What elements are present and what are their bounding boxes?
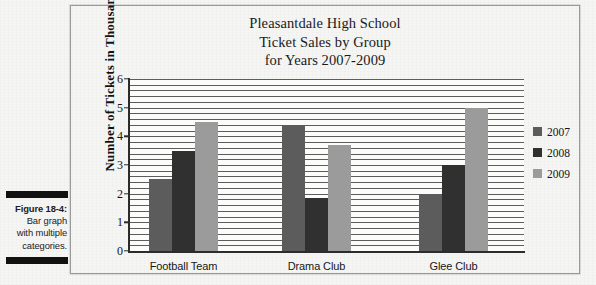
y-axis-tick-label: 6 xyxy=(107,72,123,87)
legend: 200720082009 xyxy=(533,123,570,186)
bar-drama-club-2007 xyxy=(282,125,305,251)
chart-title-line-1: Pleasantdale High School xyxy=(71,14,579,33)
y-axis-tick-labels: 0123456 xyxy=(107,79,123,251)
y-axis-line xyxy=(128,78,130,252)
legend-item-2007: 2007 xyxy=(533,123,570,140)
legend-label: 2008 xyxy=(547,147,570,159)
chart-title: Pleasantdale High School Ticket Sales by… xyxy=(71,14,579,70)
y-axis-tick-label: 5 xyxy=(107,100,123,115)
figure-frame: Pleasantdale High School Ticket Sales by… xyxy=(70,5,580,274)
x-axis-label-drama-club: Drama Club xyxy=(257,260,377,272)
y-axis-tick-label: 3 xyxy=(107,158,123,173)
plot-area xyxy=(129,79,524,251)
y-axis-tick-label: 1 xyxy=(107,215,123,230)
x-axis-label-glee-club: Glee Club xyxy=(394,260,514,272)
y-axis-tick-label: 4 xyxy=(107,129,123,144)
plot-wrapper xyxy=(129,79,524,251)
bar-football-team-2007 xyxy=(149,179,172,251)
caption-rule-bottom xyxy=(6,257,68,264)
x-axis-label-football-team: Football Team xyxy=(124,260,244,272)
figure-caption-block: Figure 18-4: Bar graph with multiple cat… xyxy=(6,191,68,264)
legend-label: 2009 xyxy=(547,168,570,180)
figure-caption-line-2: with multiple xyxy=(6,227,67,239)
y-axis-tick-label: 2 xyxy=(107,186,123,201)
chart-title-line-3: for Years 2007-2009 xyxy=(71,51,579,70)
bar-drama-club-2009 xyxy=(328,145,351,251)
y-axis-tick-label: 0 xyxy=(107,244,123,259)
figure-caption-line-3: categories. xyxy=(6,240,67,252)
legend-item-2009: 2009 xyxy=(533,165,570,182)
scanned-book-page: Figure 18-4: Bar graph with multiple cat… xyxy=(0,0,596,285)
caption-rule-top xyxy=(6,191,68,198)
bar-glee-club-2007 xyxy=(419,194,442,251)
legend-label: 2007 xyxy=(547,126,570,138)
bar-drama-club-2008 xyxy=(305,198,328,251)
bars-layer xyxy=(129,79,524,251)
figure-caption-line-1: Bar graph xyxy=(6,215,67,227)
bar-glee-club-2009 xyxy=(465,108,488,251)
legend-swatch-icon xyxy=(533,169,542,178)
figure-caption-text: Figure 18-4: Bar graph with multiple cat… xyxy=(6,198,68,257)
figure-caption-label: Figure 18-4: xyxy=(6,203,67,215)
legend-swatch-icon xyxy=(533,148,542,157)
legend-swatch-icon xyxy=(533,127,542,136)
legend-item-2008: 2008 xyxy=(533,144,570,161)
bar-football-team-2008 xyxy=(172,151,195,251)
chart-title-line-2: Ticket Sales by Group xyxy=(71,33,579,52)
x-axis-line xyxy=(128,251,525,253)
bar-football-team-2009 xyxy=(195,122,218,251)
bar-glee-club-2008 xyxy=(442,165,465,251)
